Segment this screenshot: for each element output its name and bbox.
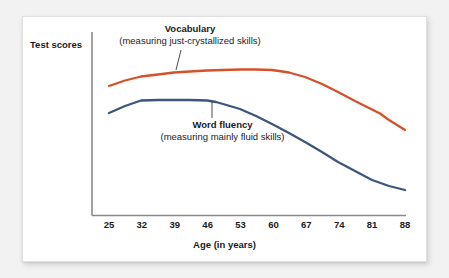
vocabulary-leader-line [176,50,181,70]
series-line-word-fluency [109,100,405,190]
word-fluency-label-sub: (measuring mainly fluid skills) [135,132,310,142]
x-tick-label: 53 [229,219,253,230]
x-tick-label: 39 [163,219,187,230]
x-tick-label: 32 [130,219,154,230]
x-axis-title: Age (in years) [0,240,449,250]
series-annotation-word-fluency: Word fluency (measuring mainly fluid ski… [135,120,310,141]
x-tick-label: 60 [261,219,285,230]
vocabulary-label-name: Vocabulary [95,24,285,34]
screenshot-root: Test scores Vocabulary (measuring just-c… [0,0,449,278]
x-tick-label: 46 [196,219,220,230]
x-tick-label: 25 [97,219,121,230]
x-tick-label: 88 [393,219,417,230]
x-tick-label: 67 [294,219,318,230]
vocabulary-label-sub: (measuring just-crystallized skills) [95,36,285,46]
y-axis-title: Test scores [30,40,82,50]
x-tick-label: 74 [327,219,351,230]
series-annotation-vocabulary: Vocabulary (measuring just-crystallized … [95,24,285,45]
x-tick-label: 81 [360,219,384,230]
word-fluency-label-name: Word fluency [135,120,310,130]
